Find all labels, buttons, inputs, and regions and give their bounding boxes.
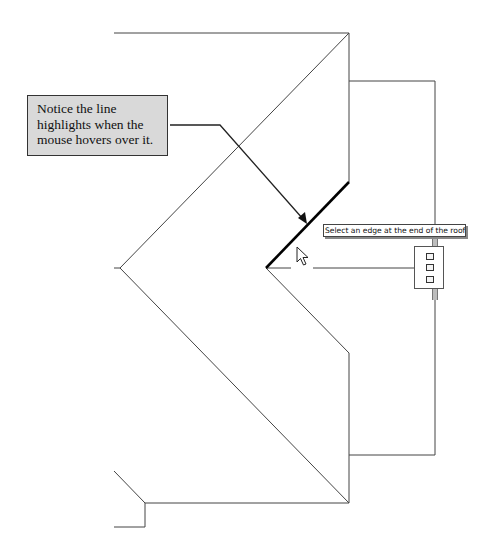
callout-line: Notice the line [37, 101, 167, 117]
lower-hip-line[interactable] [120, 268, 349, 503]
grip-square-icon [426, 276, 434, 283]
hover-tooltip: Select an edge at the end of the roof th… [323, 224, 466, 237]
callout-line: mouse hovers over it. [37, 132, 167, 148]
callout-line: highlights when the [37, 117, 167, 133]
bottom-left-diagonal[interactable] [114, 471, 145, 503]
leader-arrowhead-icon [298, 212, 307, 224]
grip-square-icon [426, 264, 434, 271]
mouse-pointer-icon [297, 247, 308, 265]
inner-lower-edge[interactable] [266, 268, 349, 353]
grip-square-icon [426, 253, 434, 260]
annotation-callout: Notice the line highlights when the mous… [27, 95, 168, 156]
callout-leader [170, 125, 303, 219]
edge-grip-handle-icon[interactable] [414, 246, 444, 289]
